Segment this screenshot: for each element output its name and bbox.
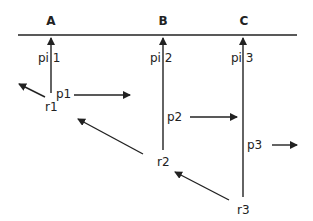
arrival-label-3: pi 3 xyxy=(231,51,253,65)
column-label-a: A xyxy=(46,14,56,28)
propagation-label-2: p2 xyxy=(167,110,182,124)
diagonal-arrow-r1 xyxy=(19,84,45,97)
propagation-label-1: p1 xyxy=(56,87,71,101)
diagonal-arrow-r3 xyxy=(175,172,229,200)
diagonal-arrow-r2 xyxy=(78,119,143,154)
propagation-label-3: p3 xyxy=(247,138,262,152)
release-label-1: r1 xyxy=(45,100,58,114)
arrival-label-1: pi 1 xyxy=(38,51,60,65)
column-label-b: B xyxy=(158,14,167,28)
arrival-label-2: pi 2 xyxy=(150,51,172,65)
release-label-2: r2 xyxy=(157,155,170,169)
timing-diagram: A B C pi 1 pi 2 pi 3 p1 p2 p3 r1 r2 r3 xyxy=(0,0,313,221)
release-label-3: r3 xyxy=(237,203,250,217)
column-label-c: C xyxy=(240,14,249,28)
